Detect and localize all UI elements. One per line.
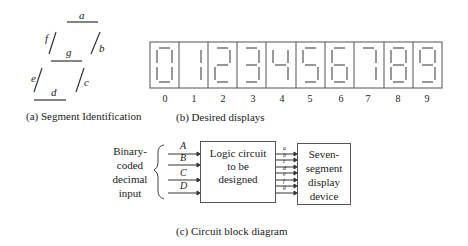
logic-box-line: Logic circuit [201, 147, 275, 160]
input-D: D [180, 180, 187, 191]
display-box-line: device [298, 189, 350, 203]
input-A: A [180, 140, 186, 151]
logic-box-line: to be [201, 160, 275, 173]
output-g: g [283, 184, 286, 191]
caption-c: (c) Circuit block diagram [176, 225, 288, 237]
block-diagram-wires [0, 0, 468, 246]
output-labels: a b c d e f g [283, 145, 286, 191]
output-a: a [283, 145, 286, 152]
output-e: e [283, 171, 286, 178]
input-B: B [180, 152, 186, 163]
output-c: c [283, 158, 286, 165]
logic-box-line: designed [201, 173, 275, 186]
input-C: C [180, 167, 187, 178]
display-box-line: segment [298, 161, 350, 175]
display-box-line: Seven- [298, 147, 350, 161]
seven-segment-display-box: Seven- segment display device [297, 143, 351, 205]
display-box-line: display [298, 175, 350, 189]
logic-circuit-box: Logic circuit to be designed [200, 141, 276, 203]
